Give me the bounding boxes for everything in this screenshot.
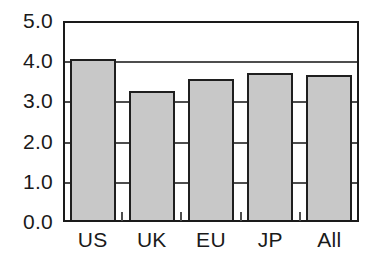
bar (70, 59, 116, 220)
y-tick-label: 0.0 (23, 211, 53, 232)
x-tick-label: EU (181, 228, 240, 252)
y-tick-label: 5.0 (23, 10, 53, 31)
bar (306, 75, 352, 220)
x-tick-label: JP (241, 228, 300, 252)
plot-area (63, 21, 359, 222)
bar (129, 91, 175, 220)
bar (188, 79, 234, 220)
x-axis-tick (240, 212, 242, 221)
x-axis-tick (180, 212, 182, 221)
bars-layer (65, 23, 357, 220)
y-tick-label: 1.0 (23, 171, 53, 192)
y-tick-label: 2.0 (23, 131, 53, 152)
bar-chart: 0.01.02.03.04.05.0 USUKEUJPAll (0, 0, 380, 266)
x-axis-tick (299, 212, 301, 221)
x-axis: USUKEUJPAll (63, 228, 359, 260)
y-tick-label: 4.0 (23, 50, 53, 71)
x-axis-tick (121, 212, 123, 221)
x-tick-label: UK (122, 228, 181, 252)
y-tick-label: 3.0 (23, 90, 53, 111)
bar (247, 73, 293, 220)
y-axis: 0.01.02.03.04.05.0 (0, 0, 58, 266)
x-tick-label: All (300, 228, 359, 252)
x-tick-label: US (63, 228, 122, 252)
